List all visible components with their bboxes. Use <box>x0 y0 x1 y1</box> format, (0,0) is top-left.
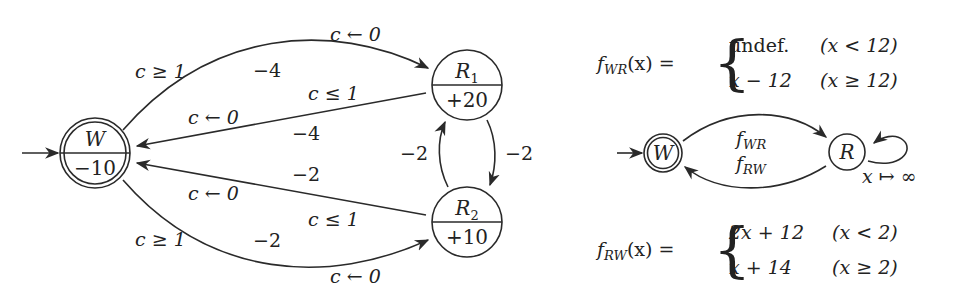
svg-text:fRW: fRW <box>734 152 768 177</box>
node-r1-weight: +20 <box>446 88 488 112</box>
edge-w-r2-reset: c ← 0 <box>330 265 381 287</box>
f-wr-case2-cond: (x ≥ 12) <box>820 69 898 91</box>
f-wr-case2-value: x − 12 <box>729 69 792 91</box>
edge-r2-w-reset: c ← 0 <box>188 182 239 204</box>
figure: W −10 R1 +20 R2 +10 c ≥ 1 −4 c ← 0 c ≤ 1 <box>0 0 969 303</box>
node-r-small: R <box>829 134 865 170</box>
edge-r-w-label-sub: RW <box>742 162 768 177</box>
f-rw-case2-cond: (x ≥ 2) <box>832 256 898 278</box>
node-r2-sub: 2 <box>470 208 478 223</box>
node-r1-name: R <box>454 59 470 83</box>
edge-r1-w-guard: c ≤ 1 <box>308 82 359 104</box>
f-rw-definition: fRW(x) = { 2x + 12 (x < 2) x + 14 (x ≥ 2… <box>595 214 898 284</box>
node-r2-name: R <box>454 196 470 220</box>
f-wr-arg: (x) = <box>627 52 675 74</box>
node-r1: R1 +20 <box>432 50 502 120</box>
node-w-weight: −10 <box>74 156 116 180</box>
edge-w-r1-weight: −4 <box>253 59 281 81</box>
edge-r1-w-weight: −4 <box>292 122 320 144</box>
edge-r1-r2-weight: −2 <box>505 142 533 164</box>
f-wr-sub: WR <box>604 62 627 77</box>
f-wr-case1-value: undef. <box>729 34 789 56</box>
edge-w-r-label-sub: WR <box>743 137 766 152</box>
left-automaton: W −10 R1 +20 R2 +10 c ≥ 1 −4 c ← 0 c ≤ 1 <box>22 23 533 287</box>
node-w-name: W <box>85 127 107 151</box>
edge-r2-r1-weight: −2 <box>400 142 428 164</box>
edge-w-r2-weight: −2 <box>253 229 281 251</box>
node-r1-sub: 1 <box>470 71 478 86</box>
edge-r-loop <box>868 136 907 163</box>
f-rw-sub: RW <box>603 248 629 263</box>
svg-text:fWR(x) =: fWR(x) = <box>595 52 675 77</box>
svg-text:fWR: fWR <box>734 127 766 152</box>
node-w: W −10 <box>60 118 130 188</box>
edge-r1-w-reset: c ← 0 <box>188 106 239 128</box>
node-w-small-name: W <box>653 141 675 165</box>
edge-r2-w-guard: c ≤ 1 <box>308 208 359 230</box>
f-rw-case1-cond: (x < 2) <box>832 221 898 243</box>
f-rw-case2-value: x + 14 <box>729 256 792 278</box>
f-wr-case1-cond: (x < 12) <box>820 34 898 56</box>
edge-w-r1 <box>123 40 428 130</box>
edge-w-r1-guard: c ≥ 1 <box>135 60 186 82</box>
edge-r2-r1 <box>439 122 448 187</box>
f-rw-arg: (x) = <box>627 238 675 260</box>
edge-w-r2 <box>123 180 428 267</box>
right-automaton: fWR(x) = { undef. (x < 12) x − 12 (x ≥ 1… <box>595 27 917 284</box>
svg-text:fRW(x) =: fRW(x) = <box>595 238 674 263</box>
edge-r1-w <box>137 93 426 146</box>
edge-r2-w <box>137 163 426 215</box>
node-r2: R2 +10 <box>432 187 502 257</box>
f-rw-case1-value: 2x + 12 <box>728 221 804 243</box>
node-w-small: W <box>644 134 682 172</box>
node-r2-weight: +10 <box>446 225 488 249</box>
edge-r-loop-label: x ↦ ∞ <box>862 165 917 187</box>
edge-r2-w-weight: −2 <box>292 163 320 185</box>
f-wr-definition: fWR(x) = { undef. (x < 12) x − 12 (x ≥ 1… <box>595 27 898 97</box>
edge-w-r1-reset: c ← 0 <box>330 23 381 45</box>
edge-r1-r2 <box>487 120 495 185</box>
node-r-small-name: R <box>838 140 854 164</box>
edge-w-r2-guard: c ≥ 1 <box>135 228 186 250</box>
